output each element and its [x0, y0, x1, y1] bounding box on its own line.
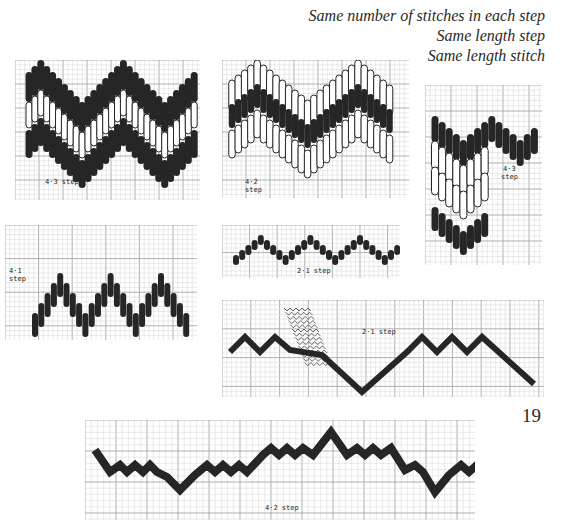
page-number: 19 [522, 405, 541, 427]
label-line-1: 4·3 [501, 165, 518, 173]
diagram-2-1-step-short: 2·1 step [222, 225, 400, 278]
diagram-4-1-step: 4·1 step [5, 225, 197, 340]
diagram-label: 2·1 step [297, 267, 331, 275]
diagram-label: 4·3 step [501, 165, 518, 181]
stitch-chart [222, 300, 544, 397]
caption-line-1: Same number of stitches in each step [309, 6, 545, 26]
diagram-label: 4·2 step [245, 178, 262, 194]
stitch-chart [5, 225, 197, 340]
caption-line-2: Same length step [309, 26, 545, 46]
diagram-label: 4·1 step [9, 267, 26, 283]
diagram-4-3-step-overlay: 4·3 step [15, 60, 200, 200]
diagram-4-3-step-partial: 4·3 step [425, 85, 542, 265]
diagram-label: 4·3 step [45, 178, 79, 186]
label-line-2: step [501, 173, 518, 181]
label-line-1: 4·1 [9, 267, 26, 275]
diagram-2-1-step-long: 2·1 step [222, 300, 544, 397]
caption: Same number of stitches in each step Sam… [309, 6, 545, 66]
diagram-label: 2·1 step [362, 328, 396, 336]
stitch-chart [425, 85, 542, 265]
diagram-label: 4·2 step [265, 504, 299, 512]
diagram-4-2-step-overlay: 4·2 step [222, 60, 409, 198]
label-line-1: 4·2 [245, 178, 262, 186]
label-line-2: step [9, 275, 26, 283]
label-line-2: step [245, 186, 262, 194]
diagram-4-2-step-band: 4·2 step [85, 420, 475, 520]
stitch-chart [15, 60, 200, 200]
